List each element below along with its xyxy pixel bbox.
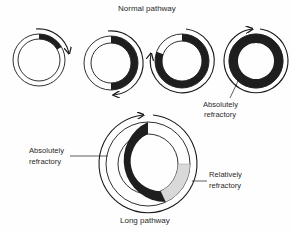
- normal-stage-3: [150, 29, 214, 93]
- long-relatively-refractory-label-line1: Relatively: [209, 170, 242, 180]
- top-absolutely-refractory-label-line1: Absolutely: [203, 100, 238, 110]
- absolutely-refractory-arc: [111, 36, 138, 90]
- normal-stage-1: [13, 29, 69, 86]
- reentry-diagram: Normal pathway Absolutely refractory Abs…: [0, 0, 292, 232]
- absolutely-refractory-arc: [124, 122, 166, 202]
- long-pathway-ring: [70, 115, 207, 213]
- normal-pathway-title: Normal pathway: [118, 4, 176, 14]
- top-absolutely-refractory-label-line2: refractory: [204, 110, 236, 120]
- long-relatively-refractory-label-line2: refractory: [209, 181, 241, 191]
- long-absolutely-refractory-label-line1: Absolutely: [29, 146, 64, 156]
- absolutely-refractory-ring: [229, 34, 283, 88]
- long-pathway-title: Long pathway: [120, 216, 170, 226]
- normal-stage-4: [224, 29, 288, 98]
- diagram-graphics: [0, 0, 292, 232]
- long-absolutely-refractory-label-line2: refractory: [29, 157, 61, 167]
- normal-stage-2: [84, 31, 143, 95]
